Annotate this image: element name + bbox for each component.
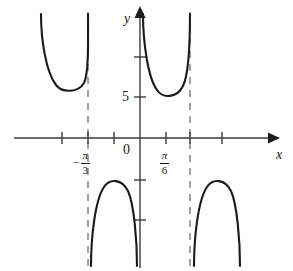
x-axis-label: x: [276, 148, 282, 162]
function-graph-figure: y x 0 5 − π 3 π 6: [0, 0, 293, 271]
x-tick-label-pi-over-6: π 6: [159, 150, 169, 176]
origin-label: 0: [123, 143, 130, 157]
curve-branch-upper-middle: [143, 14, 190, 96]
curve-branch-lower-left: [91, 181, 137, 266]
curve-branch-lower-right: [194, 181, 240, 266]
fraction-stack: π 6: [160, 150, 169, 176]
minus-sign: −: [73, 156, 81, 168]
fraction-numerator: π: [161, 150, 169, 163]
y-tick-label-5: 5: [122, 90, 129, 104]
x-axis: [14, 132, 280, 144]
curve-branch-upper-left: [41, 14, 88, 91]
fraction-denominator: 3: [83, 164, 89, 177]
x-axis-arrow-icon: [268, 133, 280, 144]
y-axis-label: y: [124, 12, 130, 26]
x-tick-label-neg-pi-over-3: − π 3: [73, 150, 90, 176]
graph-canvas: [0, 0, 293, 271]
asymptote-group: [88, 12, 190, 268]
fraction-stack: π 3: [81, 150, 90, 176]
fraction-numerator: π: [82, 150, 90, 163]
fraction-denominator: 6: [162, 164, 168, 177]
